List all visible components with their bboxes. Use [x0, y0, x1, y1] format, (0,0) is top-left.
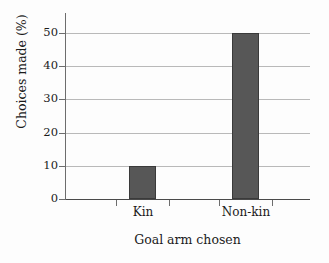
x-axis-line: [65, 199, 310, 200]
y-tick-mark-30: [59, 99, 66, 100]
bar-kin[interactable]: [129, 166, 156, 199]
x-tick-label-kin: Kin: [98, 206, 188, 219]
y-tick-mark-50: [59, 33, 66, 34]
y-tick-mark-40: [59, 66, 66, 67]
x-tick-label-non-kin: Non-kin: [201, 206, 291, 219]
y-axis-line: [65, 13, 66, 200]
y-tick-mark-20: [59, 133, 66, 134]
x-axis-title: Goal arm chosen: [65, 232, 310, 247]
bar-chart-figure: 50 40 30 20 10 0 Kin Non-kin Choices mad…: [0, 0, 329, 263]
y-tick-label-0: 0: [18, 193, 58, 205]
bar-non-kin[interactable]: [232, 33, 259, 199]
bars-layer: [65, 13, 310, 199]
y-tick-mark-0: [59, 199, 66, 200]
y-axis-title: Choices made (%): [14, 7, 29, 137]
y-tick-label-10: 10: [18, 160, 58, 172]
y-tick-mark-10: [59, 166, 66, 167]
